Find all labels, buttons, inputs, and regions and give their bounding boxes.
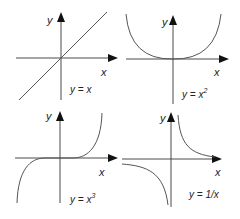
graph-reciprocal: y x y = 1/x xyxy=(122,112,222,207)
x-axis-label: x xyxy=(213,66,220,78)
x-axis-label: x xyxy=(214,166,221,178)
equation-label: y = x3 xyxy=(69,192,95,205)
x-axis-arrow-icon xyxy=(219,55,229,63)
x-axis-label: x xyxy=(100,66,107,78)
y-axis-arrow-icon xyxy=(167,112,175,122)
graph-cubic: y x y = x3 xyxy=(15,110,118,205)
y-axis-label: y xyxy=(45,110,53,122)
curve-reciprocal-negative-branch xyxy=(122,164,168,205)
y-axis-label: y xyxy=(161,16,169,28)
x-axis-arrow-icon xyxy=(108,154,118,162)
curve-y-equals-x xyxy=(19,12,107,100)
equation-label: y = x2 xyxy=(181,87,207,100)
y-axis-arrow-icon xyxy=(169,15,177,25)
equation-label: y = 1/x xyxy=(188,189,220,200)
graph-linear: y x y = x xyxy=(16,12,118,100)
x-axis-arrow-icon xyxy=(212,155,222,163)
equation-label: y = x xyxy=(69,84,92,95)
x-axis-arrow-icon xyxy=(108,54,118,62)
function-graphs-figure: y x y = x y x y = x2 y x y = x3 xyxy=(0,0,240,219)
y-axis-arrow-icon xyxy=(57,12,65,22)
y-axis-label: y xyxy=(46,14,54,26)
graph-quadratic: y x y = x2 xyxy=(126,14,229,104)
x-axis-label: x xyxy=(98,166,105,178)
curve-reciprocal-positive-branch xyxy=(178,115,215,157)
y-axis-label: y xyxy=(159,112,167,124)
y-axis-arrow-icon xyxy=(56,111,64,121)
